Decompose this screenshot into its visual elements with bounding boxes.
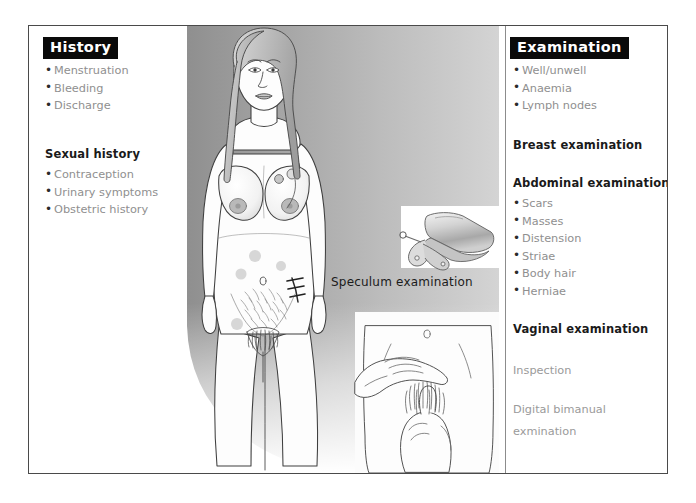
- nipple-left-center: [235, 203, 240, 208]
- column-divider: [505, 26, 506, 473]
- speculum-lever-pivot: [441, 262, 445, 266]
- pupil-left: [253, 68, 256, 71]
- list-item: Anaemia: [513, 80, 597, 98]
- illustration-panel: [159, 26, 499, 473]
- abdominal-bullet-list: Scars Masses Distension Striae Body hair…: [513, 195, 668, 300]
- vaginal-examination-header: Vaginal examination: [513, 322, 648, 336]
- pupil-right: [271, 68, 274, 71]
- vaginal-bimanual-line-1: Digital bimanual: [513, 401, 606, 419]
- sexual-history-bullet-list: Contraception Urinary symptoms Obstetric…: [45, 166, 158, 219]
- list-item: Discharge: [45, 97, 129, 115]
- list-item: Herniae: [513, 283, 668, 301]
- figure-root: History Menstruation Bleeding Discharge …: [0, 0, 696, 503]
- list-item: Bleeding: [45, 80, 129, 98]
- lower-hand-palm: [401, 412, 452, 472]
- sexual-history-header: Sexual history: [45, 147, 158, 161]
- central-illustration-svg: [159, 26, 499, 473]
- breast-examination-header: Breast examination: [513, 138, 642, 152]
- list-item: Masses: [513, 213, 668, 231]
- list-item: Obstetric history: [45, 201, 158, 219]
- figure-frame: History Menstruation Bleeding Discharge …: [28, 25, 668, 474]
- bimanual-examination-illustration: [355, 326, 493, 473]
- list-item: Distension: [513, 230, 668, 248]
- list-item: Striae: [513, 248, 668, 266]
- history-bullet-list: Menstruation Bleeding Discharge: [45, 62, 129, 115]
- history-header: History: [43, 37, 118, 59]
- accessory-nipple-marker-a: [275, 175, 284, 184]
- hand-left: [202, 296, 216, 333]
- abdominal-examination-header: Abdominal examination: [513, 176, 668, 190]
- list-item: Body hair: [513, 265, 668, 283]
- list-item: Scars: [513, 195, 668, 213]
- list-item: Lymph nodes: [513, 97, 597, 115]
- examination-bullet-list: Well/unwell Anaemia Lymph nodes: [513, 62, 597, 115]
- list-item: Well/unwell: [513, 62, 597, 80]
- speculum-pivot: [415, 256, 419, 260]
- list-item: Urinary symptoms: [45, 184, 158, 202]
- vaginal-bimanual-line-2: exmination: [513, 423, 576, 441]
- speculum-caption: Speculum examination: [331, 275, 473, 289]
- hand-right: [312, 296, 326, 333]
- list-item: Menstruation: [45, 62, 129, 80]
- vaginal-inspection-line: Inspection: [513, 362, 571, 380]
- examination-header: Examination: [510, 37, 629, 59]
- list-item: Contraception: [45, 166, 158, 184]
